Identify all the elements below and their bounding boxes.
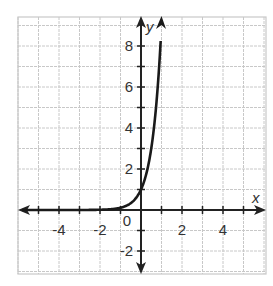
y-axis-label: y: [145, 18, 155, 35]
y-tick-label: 8: [125, 37, 133, 54]
x-axis-label: x: [251, 189, 260, 206]
x-tick-label: 0: [123, 212, 131, 229]
x-tick-label: 4: [219, 221, 227, 238]
x-tick-label: -2: [93, 221, 106, 238]
y-tick-label: 2: [125, 160, 133, 177]
exponential-graph: -4-2024-22468 x y: [0, 0, 273, 286]
x-tick-label: 2: [178, 221, 186, 238]
x-tick-label: -4: [52, 221, 65, 238]
y-tick-label: 4: [125, 119, 133, 136]
y-tick-label: -2: [120, 242, 133, 259]
y-tick-label: 6: [125, 78, 133, 95]
